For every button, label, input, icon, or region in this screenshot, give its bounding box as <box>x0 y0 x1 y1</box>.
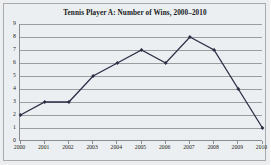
y-tick-label-7: 7 <box>3 47 16 53</box>
y-tick-label-4: 4 <box>3 86 16 92</box>
y-tick-label-1: 1 <box>3 125 16 131</box>
x-tick-label-2009: 2009 <box>225 145 249 151</box>
x-tick-label-2006: 2006 <box>153 145 177 151</box>
x-tick-label-2000: 2000 <box>8 145 32 151</box>
chart-screenshot: Tennis Player A: Number of Wins, 2000–20… <box>0 0 270 165</box>
line-series <box>20 24 263 141</box>
y-tick-label-9: 9 <box>3 21 16 27</box>
y-tick-label-0: 0 <box>3 138 16 144</box>
x-tick-label-2008: 2008 <box>201 145 225 151</box>
x-tick-label-2001: 2001 <box>32 145 56 151</box>
y-tick-label-5: 5 <box>3 73 16 79</box>
y-tick-label-6: 6 <box>3 60 16 66</box>
x-tick-label-2007: 2007 <box>177 145 201 151</box>
y-tick-label-3: 3 <box>3 99 16 105</box>
chart-title: Tennis Player A: Number of Wins, 2000–20… <box>0 9 270 17</box>
x-tick-label-2004: 2004 <box>104 145 128 151</box>
plot-area <box>19 24 262 141</box>
series-markers <box>19 35 265 130</box>
x-tick-label-2005: 2005 <box>129 145 153 151</box>
x-tick-label-2003: 2003 <box>80 145 104 151</box>
y-tick-label-2: 2 <box>3 112 16 118</box>
x-axis-tick-labels: 2000200120022003200420052006200720082009… <box>19 145 262 157</box>
y-tick-label-8: 8 <box>3 34 16 40</box>
x-tick-label-2010: 2010 <box>250 145 271 151</box>
x-tick-label-2002: 2002 <box>56 145 80 151</box>
